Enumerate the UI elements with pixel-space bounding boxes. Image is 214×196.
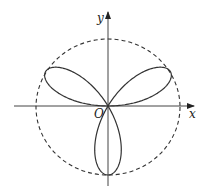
rose-curve-diagram: x y O (0, 0, 214, 196)
y-axis-label: y (96, 11, 104, 25)
origin-label: O (94, 107, 104, 121)
x-axis-label: x (189, 107, 196, 121)
